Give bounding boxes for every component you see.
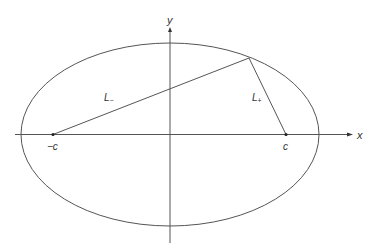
left-focus-point (51, 133, 54, 136)
y-axis-label: y (166, 14, 174, 26)
l-minus-label: L− (104, 92, 114, 104)
l-minus-subscript: − (110, 97, 114, 104)
right-focus-point (284, 133, 287, 136)
l-plus-label: L+ (252, 92, 262, 104)
left-focus-label: −c (47, 141, 58, 152)
y-axis-arrow-icon (168, 27, 172, 32)
l-plus-subscript: + (258, 97, 262, 104)
x-axis-label: x (356, 129, 363, 141)
segment-l-minus (53, 58, 249, 135)
ellipse-diagram: y x −c c L− L+ (0, 0, 372, 251)
right-focus-label: c (283, 141, 288, 152)
x-axis-arrow-icon (347, 133, 353, 137)
